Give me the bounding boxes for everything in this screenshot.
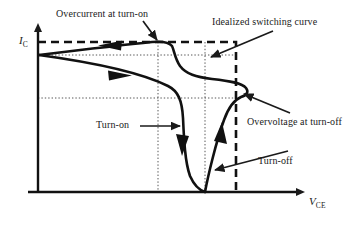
x-axis-label-main: V (309, 195, 316, 207)
overvoltage-leader-line (244, 94, 290, 113)
annotation-turn-on-label: Turn-on (96, 120, 129, 130)
annotation-idealized-label: Idealized switching curve (212, 17, 317, 27)
idealized-leader-line (211, 31, 273, 57)
switching-curve-plot (0, 0, 359, 225)
idealized-curve-path (38, 42, 236, 192)
switching-curve-figure: Overcurrent at turn-on Idealized switchi… (0, 0, 359, 225)
grid-dotted-lines (38, 42, 236, 192)
direction-arrow-rise-up (214, 122, 227, 144)
idealized-switching-curve (38, 42, 236, 192)
x-axis-label-subscript: CE (316, 201, 326, 210)
x-axis-label: VCE (309, 196, 326, 210)
plot-axes (28, 31, 297, 192)
annotation-turn-off-label: Turn-off (258, 156, 293, 166)
annotation-overvoltage-label: Overvoltage at turn-off (247, 117, 342, 127)
y-axis-label: IC (19, 35, 28, 49)
y-axis-label-subscript: C (23, 40, 28, 49)
overcurrent-leader-line (143, 21, 157, 40)
direction-arrow-descend-down (176, 134, 189, 156)
annotation-overcurrent-label: Overcurrent at turn-on (56, 9, 148, 19)
